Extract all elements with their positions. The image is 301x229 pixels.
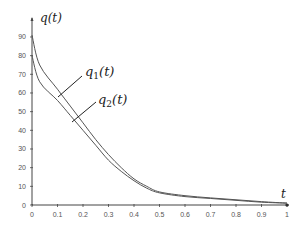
y-tick-label: 50 — [18, 108, 26, 115]
y-tick-label: 40 — [18, 127, 26, 134]
y-tick-label: 80 — [18, 52, 26, 59]
y-tick-label: 90 — [18, 33, 26, 40]
x-tick-label: 0.2 — [78, 211, 88, 218]
y-tick-label: 60 — [18, 89, 26, 96]
x-tick-label: 0.7 — [206, 211, 216, 218]
y-tick-label: 10 — [18, 183, 26, 190]
x-tick-label: 1 — [285, 211, 289, 218]
y-tick-label: 30 — [18, 145, 26, 152]
series-line-1 — [32, 35, 287, 203]
y-axis-arrow-icon — [31, 17, 34, 21]
data-lines — [32, 35, 287, 203]
annotation-leader-line — [58, 76, 82, 97]
x-tick-label: 0.9 — [257, 211, 267, 218]
x-tick-label: 0.4 — [129, 211, 139, 218]
line-chart: 010203040506070809000.10.20.30.40.50.60.… — [0, 0, 301, 229]
x-tick-label: 0.6 — [180, 211, 190, 218]
annotation-leader-line — [72, 102, 96, 122]
x-tick-label: 0.1 — [53, 211, 63, 218]
annotation-label-2: q2(t) — [98, 92, 127, 109]
series-line-2 — [32, 56, 287, 203]
y-tick-label: 20 — [18, 164, 26, 171]
x-tick-label: 0.5 — [155, 211, 165, 218]
y-tick-label: 70 — [18, 71, 26, 78]
y-axis-label: q(t) — [40, 11, 62, 25]
x-tick-label: 0.3 — [104, 211, 114, 218]
annotation-label-1: q1(t) — [85, 64, 114, 81]
x-tick-label: 0.8 — [231, 211, 241, 218]
x-tick-label: 0 — [30, 211, 34, 218]
axes: 010203040506070809000.10.20.30.40.50.60.… — [18, 11, 289, 218]
y-tick-label: 0 — [22, 202, 26, 209]
x-axis-label: t — [281, 187, 286, 201]
